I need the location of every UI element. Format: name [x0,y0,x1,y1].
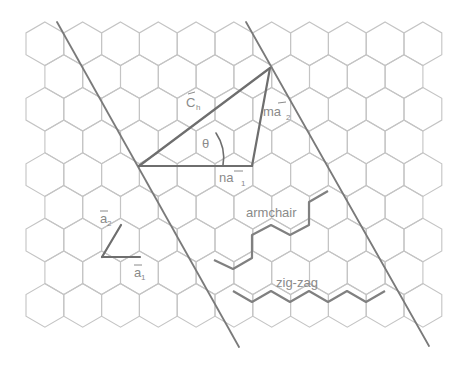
hexagon-cell [139,22,177,66]
hexagon-cell [196,186,234,230]
hexagon-cell [64,284,102,328]
hexagon-cell [347,120,385,164]
svg-text:h: h [196,103,200,112]
hexagon-cell [328,22,366,66]
hexagon-cell [328,153,366,197]
hexagon-cell [404,22,442,66]
hexagon-cell [385,120,423,164]
hexagon-cell [366,218,404,262]
hexagon-cell [215,22,253,66]
svg-text:2: 2 [107,219,112,228]
a2-label: a 2 [100,211,112,228]
svg-text:1: 1 [241,179,246,188]
nanotube-chirality-diagram: C h θ ma 2 na 1 a 2 a 1 armchair zig-zag [0,0,467,367]
hexagon-cell [404,87,442,131]
hexagon-cell [26,153,64,197]
hexagon-cell [177,22,215,66]
hexagon-cell [291,22,329,66]
hexagon-cell [404,153,442,197]
theta-label: θ [202,136,209,151]
hexagon-cell [121,55,159,99]
hexagon-cell [215,284,253,328]
vector-arrow-icon [188,92,195,94]
hexagon-cell [158,251,196,295]
hexagon-cell [366,153,404,197]
hexagon-cell [26,218,64,262]
zigzag-label: zig-zag [276,275,318,290]
hexagon-cell [139,284,177,328]
armchair-label: armchair [246,205,297,220]
hexagon-cell [64,153,102,197]
a2-unit-vector [102,225,121,257]
hexagon-cell [26,284,64,328]
hexagon-cell [45,55,83,99]
svg-text:2: 2 [286,113,291,122]
hexagon-cell [158,55,196,99]
hexagon-cell [385,55,423,99]
hexagon-cell [253,153,291,197]
hexagon-cell [102,22,140,66]
hexagon-cell [139,87,177,131]
hexagon-cell [404,218,442,262]
hexagon-cell [26,22,64,66]
hexagon-cell [139,153,177,197]
hexagon-cell [102,87,140,131]
armchair-edge-path [214,191,328,269]
hexagon-cell [328,87,366,131]
chiral-vector-label: C h [186,92,200,112]
hexagon-cell [26,87,64,131]
svg-text:na: na [219,170,234,185]
hexagon-cell [102,284,140,328]
hexagon-cell [272,120,310,164]
na1-label: na 1 [219,170,246,188]
vector-arrow-icon [278,102,286,103]
hexagon-cell [385,186,423,230]
svg-text:C: C [186,95,195,110]
hexagon-cell [385,251,423,295]
ma2-label: ma 2 [263,102,291,122]
hexagon-cell [45,186,83,230]
hexagon-cell [215,218,253,262]
hexagon-cell [177,218,215,262]
hexagon-cell [196,251,234,295]
hexagon-cell [347,186,385,230]
hexagon-cell [64,87,102,131]
hexagon-cell [366,87,404,131]
hexagon-cell [310,120,348,164]
hexagon-cell [404,284,442,328]
hexagon-cell [366,22,404,66]
boundary-line [57,22,239,347]
hexagon-cell [158,186,196,230]
hexagon-cell [45,120,83,164]
a1-label: a 1 [134,265,146,282]
hexagon-cell [64,218,102,262]
hexagon-cell [310,55,348,99]
hexagon-cell [347,55,385,99]
svg-text:ma: ma [263,104,282,119]
hexagon-cell [196,55,234,99]
theta-angle-arc [216,133,224,165]
hexagon-cell [177,284,215,328]
hexagon-cell [45,251,83,295]
hexagonal-lattice [26,22,442,327]
svg-text:1: 1 [141,273,146,282]
hexagon-cell [177,153,215,197]
